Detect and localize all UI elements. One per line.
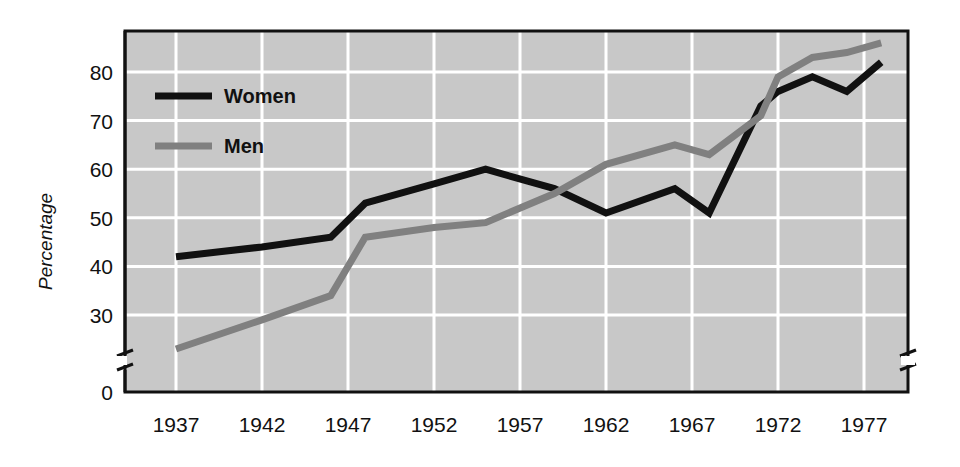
y-tick-40: 40 xyxy=(90,255,113,278)
legend-label-women: Women xyxy=(224,85,296,107)
y-axis-title: Percentage xyxy=(35,193,56,290)
x-tick-1942: 1942 xyxy=(239,413,286,436)
x-tick-1952: 1952 xyxy=(411,413,458,436)
y-axis-tick-labels: 0304050607080 xyxy=(90,61,113,404)
legend-label-men: Men xyxy=(224,135,264,157)
line-chart: 0304050607080 19371942194719521957196219… xyxy=(0,0,960,467)
chart-container: 0304050607080 19371942194719521957196219… xyxy=(0,0,960,467)
y-tick-60: 60 xyxy=(90,158,113,181)
x-tick-1962: 1962 xyxy=(583,413,630,436)
x-tick-1967: 1967 xyxy=(669,413,716,436)
y-tick-50: 50 xyxy=(90,207,113,230)
break-gap-fill xyxy=(117,356,127,365)
y-tick-30: 30 xyxy=(90,304,113,327)
x-tick-1977: 1977 xyxy=(841,413,888,436)
y-tick-70: 70 xyxy=(90,110,113,133)
x-tick-1947: 1947 xyxy=(325,413,372,436)
x-tick-1957: 1957 xyxy=(497,413,544,436)
y-tick-0: 0 xyxy=(101,381,113,404)
x-axis-tick-labels: 193719421947195219571962196719721977 xyxy=(153,413,888,436)
x-tick-1972: 1972 xyxy=(755,413,802,436)
y-tick-80: 80 xyxy=(90,61,113,84)
x-tick-1937: 1937 xyxy=(153,413,200,436)
